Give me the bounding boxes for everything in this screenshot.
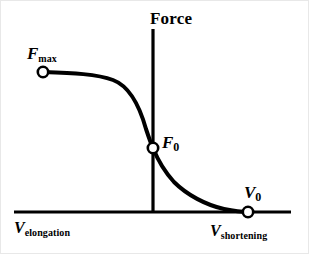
- axis-title-force: Force: [150, 10, 192, 27]
- label-v-zero-base: V: [244, 183, 255, 202]
- label-f-zero-subscript: 0: [173, 140, 179, 154]
- label-f-zero-base: F: [162, 133, 173, 152]
- plot-area: [1, 1, 309, 254]
- label-v-shortening-base: V: [210, 222, 221, 239]
- force-velocity-figure: Force Fmax F0 V0 Velongation Vshortening: [0, 0, 309, 254]
- label-v-elongation-base: V: [14, 219, 25, 236]
- label-v-zero-subscript: 0: [255, 190, 261, 204]
- label-v-shortening: Vshortening: [210, 223, 267, 239]
- label-f-max: Fmax: [27, 45, 57, 62]
- label-v-shortening-subscript: shortening: [221, 230, 268, 241]
- label-v-elongation: Velongation: [14, 220, 70, 236]
- label-v-zero: V0: [244, 184, 261, 201]
- marker-f-max: [38, 67, 48, 77]
- marker-f-zero: [148, 143, 158, 153]
- label-f-max-subscript: max: [38, 53, 57, 64]
- label-v-elongation-subscript: elongation: [25, 227, 70, 238]
- label-f-zero: F0: [162, 134, 179, 151]
- force-velocity-curve: [43, 72, 248, 212]
- label-f-max-base: F: [27, 44, 38, 63]
- marker-v-zero: [243, 207, 253, 217]
